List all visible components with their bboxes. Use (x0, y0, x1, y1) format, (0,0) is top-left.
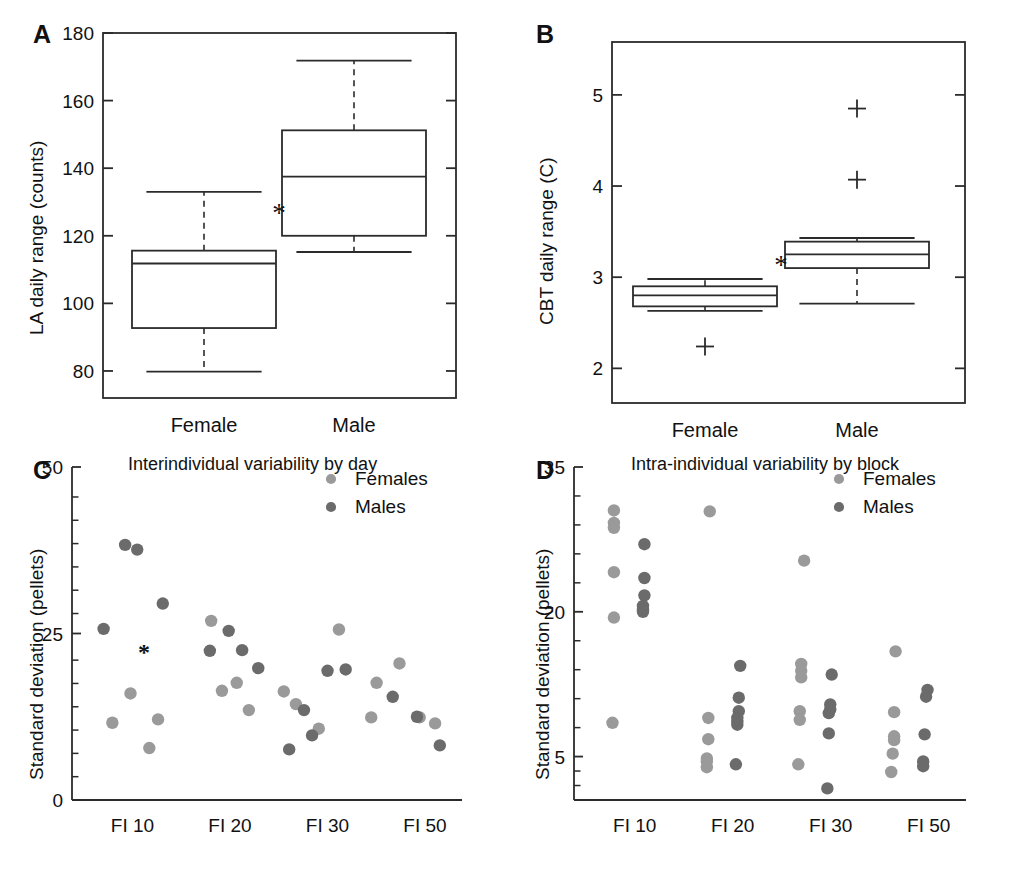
boxplot-female (132, 192, 276, 372)
data-point (826, 668, 838, 680)
y-tick-label: 3 (592, 267, 603, 288)
panel-d: D Standard deviation (pellets) Intra-ind… (506, 440, 1013, 877)
data-point (823, 727, 835, 739)
data-point (886, 747, 898, 759)
data-point (606, 717, 618, 729)
data-point (236, 644, 248, 656)
data-point (411, 711, 423, 723)
data-point (204, 645, 216, 657)
panel-a: A LA daily range (counts) 80100120140160… (0, 0, 506, 440)
panel-b-canvas: 2345*FemaleMale (506, 0, 1013, 440)
data-point (119, 539, 131, 551)
data-point (733, 691, 745, 703)
data-point (637, 606, 649, 618)
data-point (917, 760, 929, 772)
y-tick-label: 80 (73, 361, 94, 382)
y-tick-label: 5 (554, 747, 565, 768)
category-label-female: Female (171, 414, 238, 436)
data-point (370, 677, 382, 689)
y-tick-label: 0 (52, 790, 63, 811)
panel-a-canvas: 80100120140160180*FemaleMale (0, 0, 506, 440)
data-point (920, 691, 932, 703)
data-point (888, 706, 900, 718)
legend-marker-females (834, 474, 844, 484)
data-point (298, 704, 310, 716)
panel-b: B CBT daily range (C) 2345*FemaleMale (506, 0, 1013, 440)
data-point (252, 662, 264, 674)
box-iqr (132, 251, 276, 328)
data-point (794, 714, 806, 726)
data-point (730, 758, 742, 770)
box-iqr (633, 286, 777, 306)
significance-asterisk: * (138, 639, 150, 665)
data-point (434, 739, 446, 751)
significance-asterisk: * (774, 250, 788, 280)
box-iqr (282, 130, 426, 235)
panel-c: C Standard deviation (pellets) Interindi… (0, 440, 506, 877)
data-point (393, 657, 405, 669)
data-point (321, 665, 333, 677)
x-tick-label: FI 30 (306, 815, 349, 836)
panel-d-canvas: 52035FemalesMalesFI 10FI 20FI 30FI 50 (506, 440, 1013, 877)
data-point (704, 505, 716, 517)
data-point (734, 660, 746, 672)
data-point (124, 687, 136, 699)
plot-frame (612, 42, 965, 403)
y-tick-label: 20 (544, 602, 565, 623)
boxplot-male (785, 100, 929, 304)
data-point (143, 742, 155, 754)
data-point (702, 712, 714, 724)
x-tick-label: FI 10 (613, 815, 656, 836)
data-point (429, 717, 441, 729)
data-point (885, 766, 897, 778)
x-tick-label: FI 50 (907, 815, 950, 836)
y-tick-label: 180 (62, 23, 94, 44)
data-point (608, 611, 620, 623)
y-tick-label: 140 (62, 158, 94, 179)
data-point (638, 538, 650, 550)
data-point (387, 691, 399, 703)
data-point (222, 625, 234, 637)
y-tick-label: 50 (42, 457, 63, 478)
y-tick-label: 2 (592, 358, 603, 379)
y-tick-label: 4 (592, 176, 603, 197)
data-point (231, 677, 243, 689)
data-point (888, 734, 900, 746)
y-tick-label: 160 (62, 91, 94, 112)
data-point (365, 711, 377, 723)
y-tick-label: 25 (42, 624, 63, 645)
legend-label-males: Males (355, 496, 406, 517)
data-point (608, 566, 620, 578)
figure-panel-grid: A LA daily range (counts) 80100120140160… (0, 0, 1013, 877)
x-tick-label: FI 20 (711, 815, 754, 836)
data-point (918, 728, 930, 740)
data-point (608, 522, 620, 534)
data-point (795, 671, 807, 683)
data-point (823, 707, 835, 719)
data-point (731, 719, 743, 731)
data-point (638, 572, 650, 584)
data-point (821, 782, 833, 794)
data-point (131, 543, 143, 555)
legend-marker-males (326, 502, 336, 512)
x-tick-label: FI 10 (111, 815, 154, 836)
legend-label-males: Males (863, 496, 914, 517)
data-point (889, 645, 901, 657)
category-label-male: Male (332, 414, 375, 436)
data-point (792, 758, 804, 770)
panel-c-canvas: 02550*FemalesMalesFI 10FI 20FI 30FI 50 (0, 440, 506, 877)
data-point (608, 504, 620, 516)
x-tick-label: FI 50 (403, 815, 446, 836)
data-point (243, 704, 255, 716)
data-point (798, 554, 810, 566)
significance-asterisk: * (272, 198, 286, 228)
x-tick-label: FI 20 (208, 815, 251, 836)
data-point (702, 733, 714, 745)
category-label-male: Male (835, 419, 878, 441)
x-tick-label: FI 30 (809, 815, 852, 836)
legend-marker-females (326, 474, 336, 484)
legend-marker-males (834, 502, 844, 512)
y-tick-label: 5 (592, 85, 603, 106)
data-point (306, 729, 318, 741)
series-females (106, 615, 441, 755)
